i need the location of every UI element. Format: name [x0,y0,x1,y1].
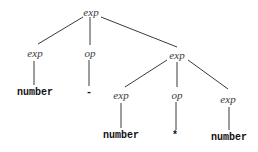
node-op: op [85,48,96,59]
node-times-terminal: * [172,131,178,141]
node-exp-left: exp [27,48,42,59]
node-inner-number-right: number [211,133,247,143]
node-exp-right: exp [169,50,184,61]
node-root-exp: exp [83,7,98,18]
parse-tree-diagram: exp exp op exp number - exp op exp numbe… [0,0,258,152]
node-inner-exp-left: exp [113,90,128,101]
edge-root-to-exp-right [101,17,177,47]
node-inner-number-left: number [103,131,139,141]
edge-exp-right-to-exp [125,60,167,87]
edge-root-to-exp-left [38,17,83,44]
edge-exp-right-to-exp-right [188,60,228,89]
node-minus-terminal: - [86,88,92,98]
node-inner-exp-right: exp [220,94,235,105]
node-number-terminal: number [17,88,53,98]
node-inner-op: op [172,90,183,101]
